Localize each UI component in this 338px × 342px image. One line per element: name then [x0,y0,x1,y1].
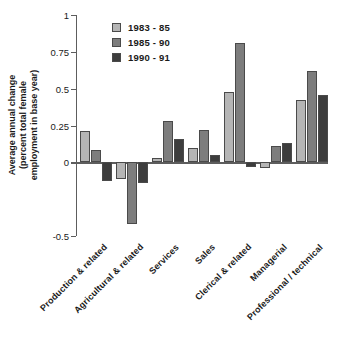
legend-label: 1985 - 90 [128,37,170,48]
legend-item[interactable]: 1983 - 85 [112,20,170,35]
y-tick-label: 1 [64,10,69,21]
y-tick-mark [71,15,76,16]
x-tick-label: Agricultural & related [72,242,145,315]
y-axis-line [76,15,77,236]
bar [260,162,271,168]
bar [246,162,257,166]
y-tick-mark [71,162,76,163]
y-tick-mark [71,236,76,237]
legend-item[interactable]: 1985 - 90 [112,35,170,50]
bar [116,162,127,178]
x-tick-label: Sales [193,242,217,266]
y-tick-label: -0.5 [53,231,69,242]
bar [235,43,246,162]
bar [163,121,174,162]
y-tick-label: 0 [64,157,69,168]
y-tick-label: 0.5 [56,83,69,94]
bar [271,146,282,162]
y-tick-label: 0.25 [51,120,70,131]
y-tick-mark [71,89,76,90]
x-tick-label: Professional / technical [245,242,325,322]
legend-swatch-icon [112,38,121,47]
y-tick-label: 0.75 [51,46,70,57]
x-tick-label: Services [147,242,181,276]
legend: 1983 - 851985 - 901990 - 91 [112,20,170,65]
bar [318,95,329,163]
legend-label: 1983 - 85 [128,22,170,33]
bar [199,130,210,162]
bar [127,162,138,224]
y-tick-mark [71,126,76,127]
zero-baseline [76,162,328,163]
y-axis-title-line-3: employment in base year) [29,70,40,181]
bar-chart: Average annual change (percent total fem… [0,0,338,342]
bar [102,162,113,181]
legend-swatch-icon [112,53,121,62]
legend-swatch-icon [112,23,121,32]
legend-item[interactable]: 1990 - 91 [112,50,170,65]
bar [210,155,221,162]
bar [152,158,163,162]
y-tick-mark [71,52,76,53]
y-axis-title-line-1: Average annual change [7,70,18,181]
bar [80,131,91,162]
bar [296,100,307,162]
bar [188,148,199,163]
bar [307,71,318,162]
bar [224,92,235,163]
bar [138,162,149,183]
legend-label: 1990 - 91 [128,52,170,63]
y-axis-title: Average annual change (percent total fem… [0,0,46,250]
x-tick-label: Production & related [38,242,109,313]
bar [282,143,293,162]
bar [91,150,102,163]
y-axis-title-line-2: (percent total female [18,70,29,181]
bar [174,139,185,163]
